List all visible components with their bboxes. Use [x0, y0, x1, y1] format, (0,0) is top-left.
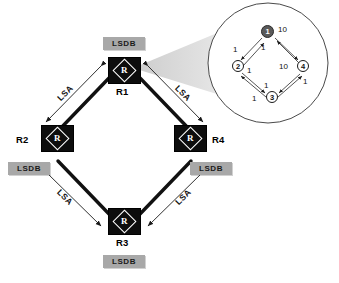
diagram-canvas: R R1 LSDB R R2 LSDB R R4 LSDB R R3 LSDB …	[0, 0, 339, 283]
router-r2[interactable]: R	[41, 125, 74, 152]
lsdb-box-r4[interactable]: LSDB	[190, 162, 232, 175]
edge-weight-1-4-top: 10	[278, 25, 287, 34]
edge-weight-1-2: 1	[261, 43, 265, 52]
router-label-r4: R4	[212, 134, 225, 145]
lsdb-box-r3[interactable]: LSDB	[103, 255, 145, 268]
graph-node-2[interactable]: 2	[232, 60, 244, 72]
router-icon: R	[112, 58, 136, 82]
router-label-r3: R3	[116, 237, 129, 248]
router-glyph: R	[121, 66, 128, 75]
graph-node-3[interactable]: 3	[266, 91, 278, 103]
router-label-r2: R2	[16, 134, 29, 145]
router-r4[interactable]: R	[174, 125, 207, 152]
router-r1[interactable]: R	[108, 57, 141, 84]
router-icon: R	[112, 209, 136, 233]
router-label-r1: R1	[116, 86, 129, 97]
edge-weight-2-3: 1	[247, 66, 251, 75]
router-icon: R	[45, 126, 69, 150]
lsdb-box-r1[interactable]: LSDB	[103, 37, 145, 50]
edge-weight-4-3: 1	[303, 77, 307, 86]
edge-weight-4-3-inner: 10	[279, 62, 288, 71]
edge-weight-3-4: 1	[264, 81, 268, 90]
router-glyph: R	[121, 217, 128, 226]
magnifier-lens	[208, 3, 328, 123]
lsdb-box-r2[interactable]: LSDB	[8, 162, 50, 175]
router-glyph: R	[187, 134, 194, 143]
router-glyph: R	[54, 134, 61, 143]
router-r3[interactable]: R	[108, 208, 141, 235]
edge-weight-2-1: 1	[233, 45, 237, 54]
edge-weight-3-2: 1	[252, 94, 256, 103]
graph-node-4[interactable]: 4	[297, 60, 309, 72]
graph-node-1[interactable]: 1	[261, 25, 274, 38]
router-icon: R	[178, 126, 202, 150]
